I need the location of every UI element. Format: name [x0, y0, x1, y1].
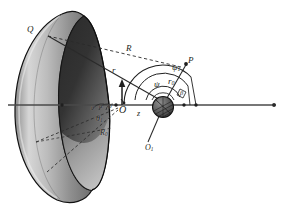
label-theta-1: θ1	[96, 115, 103, 123]
diagram-canvas	[0, 0, 284, 215]
label-beta: β	[180, 90, 183, 97]
label-r-0: r0	[168, 77, 174, 87]
axis-point-right-a	[182, 103, 185, 106]
label-O: O	[119, 105, 126, 115]
label-alpha: α	[99, 103, 102, 110]
label-phi: φ	[108, 103, 112, 110]
label-psi: ψ	[154, 80, 160, 89]
arc-r0-tick	[188, 86, 190, 105]
label-R: R	[126, 44, 132, 53]
axis-end-point	[272, 103, 276, 107]
axis-point-O	[114, 103, 117, 106]
label-P: P	[188, 56, 194, 65]
label-Q: Q	[27, 25, 34, 34]
arc-psi-tick	[191, 77, 196, 105]
physics-diagram-figure: Q R r P ψ1 ψ r0 β O z θ α φ θ1 R0 O	[0, 0, 284, 215]
label-z: z	[137, 110, 140, 118]
label-r: r	[112, 66, 116, 75]
label-R-0: R0	[100, 129, 108, 137]
central-sphere	[152, 97, 174, 121]
label-O-1: O1	[145, 144, 153, 152]
concave-reflector-dish	[15, 12, 110, 203]
label-psi-1: ψ1	[172, 63, 181, 73]
axis-point-left-rim	[60, 103, 63, 106]
label-theta: θ	[91, 105, 94, 112]
